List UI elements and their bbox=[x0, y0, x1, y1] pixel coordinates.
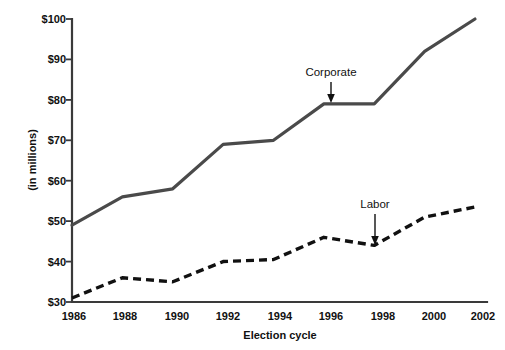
line-chart: (in millions) $100 $90 $80 $70 $60 $50 $… bbox=[0, 0, 505, 350]
y-tick-label: $60 bbox=[48, 175, 66, 187]
x-tick-label: 1998 bbox=[371, 310, 395, 322]
y-tick-label: $70 bbox=[48, 134, 66, 146]
x-tick-label: 1994 bbox=[268, 310, 293, 322]
x-tick-label: 1990 bbox=[165, 310, 189, 322]
series-line-corporate bbox=[72, 19, 475, 225]
series-line-labor bbox=[72, 207, 475, 298]
x-tick-label: 1992 bbox=[216, 310, 240, 322]
x-tick-label: 1996 bbox=[319, 310, 343, 322]
y-tick-label: $30 bbox=[48, 296, 66, 308]
y-axis-tick-labels: $100 $90 $80 $70 $60 $50 $40 $30 bbox=[42, 13, 66, 308]
arrow-head-icon bbox=[327, 94, 335, 103]
series-label-corporate: Corporate bbox=[305, 66, 356, 78]
y-tick-label: $90 bbox=[48, 53, 66, 65]
y-tick-label: $40 bbox=[48, 256, 66, 268]
x-tick-label: 1988 bbox=[113, 310, 137, 322]
annotation-corporate: Corporate bbox=[305, 66, 356, 103]
axis-lines bbox=[72, 19, 487, 302]
x-axis-title: Election cycle bbox=[243, 329, 316, 341]
y-tick-label: $100 bbox=[42, 13, 66, 25]
y-axis-title: (in millions) bbox=[26, 129, 38, 191]
series-label-labor: Labor bbox=[360, 198, 390, 210]
x-tick-label: 2002 bbox=[471, 310, 495, 322]
y-tick-label: $80 bbox=[48, 94, 66, 106]
x-tick-label: 1986 bbox=[62, 310, 86, 322]
x-axis-tick-labels: 1986 1988 1990 1992 1994 1996 1998 2000 … bbox=[62, 310, 495, 322]
y-tick-label: $50 bbox=[48, 215, 66, 227]
chart-container: (in millions) $100 $90 $80 $70 $60 $50 $… bbox=[0, 0, 505, 350]
x-tick-label: 2000 bbox=[422, 310, 446, 322]
